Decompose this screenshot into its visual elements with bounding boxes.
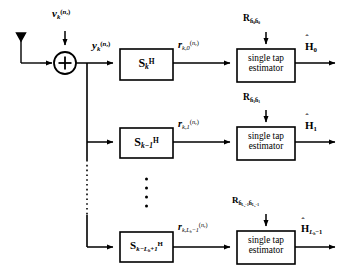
- diagram-lines: [0, 0, 352, 279]
- vertical-ellipsis-dots: [145, 178, 148, 208]
- noise-input-label: vk(nr): [52, 8, 70, 21]
- estimator-line-2: estimator: [249, 63, 284, 73]
- estimator-label-row-last: single tap estimator: [237, 236, 295, 256]
- intermediate-signal-label-row-1: rk,1(nr): [178, 119, 199, 130]
- channel-estimation-diagram: vk(nr) yk(nr) SkH rk,0(nr) single tap es…: [0, 0, 352, 279]
- estimator-line-1: single tap: [248, 53, 284, 63]
- correlation-input-label-row-last: Rh̃Lh−1h̃Lh−1: [232, 196, 259, 207]
- matched-filter-label-row-0: SkH: [120, 57, 173, 71]
- output-label-row-0: Ĥ0: [305, 41, 317, 54]
- estimator-line-2: estimator: [249, 141, 284, 151]
- estimator-label-row-1: single tap estimator: [237, 132, 295, 152]
- output-label-row-last: ĤLh−1: [301, 224, 322, 236]
- matched-filter-label-row-last: Sk−Lh+1H: [116, 240, 177, 254]
- estimator-line-1: single tap: [248, 235, 284, 245]
- estimator-label-row-0: single tap estimator: [237, 54, 295, 74]
- bus-signal-label: yk(nr): [92, 40, 110, 53]
- intermediate-signal-label-row-last: rk,Lh−1(nr): [178, 222, 208, 235]
- estimator-line-2: estimator: [249, 245, 284, 255]
- correlation-input-label-row-1: Rh̃1h̃1: [243, 93, 260, 104]
- antenna-icon: [17, 33, 41, 63]
- intermediate-signal-label-row-0: rk,0(nr): [178, 40, 199, 51]
- matched-filter-label-row-1: Sk−1H: [120, 136, 173, 150]
- correlation-input-label-row-0: Rh̃0h̃0: [243, 14, 260, 25]
- estimator-line-1: single tap: [248, 131, 284, 141]
- output-label-row-1: Ĥ1: [305, 120, 317, 133]
